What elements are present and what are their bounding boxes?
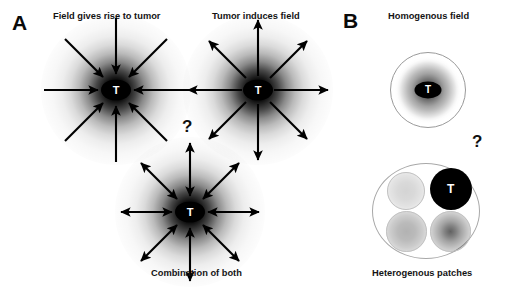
panel-letter-a: A bbox=[12, 12, 27, 33]
diagram-combination-of-both: T bbox=[115, 137, 265, 287]
tumor-node-2: T bbox=[243, 80, 273, 101]
tumor-label: T bbox=[113, 84, 120, 96]
figure-canvas: A Field gives rise to tumor Tumor induce… bbox=[0, 0, 515, 300]
tumor-node-homogenous: T bbox=[415, 82, 442, 99]
question-mark-panel-b: ? bbox=[472, 133, 482, 150]
diagram-caption-combination-of-both: Combination of both bbox=[151, 268, 242, 278]
diagram-homogenous-field: T bbox=[378, 40, 478, 140]
patch-bottom-left-outline bbox=[386, 211, 427, 252]
tumor-label: T bbox=[425, 85, 431, 96]
tumor-label: T bbox=[255, 84, 262, 96]
tumor-node-3: T bbox=[175, 202, 205, 223]
tumor-label: T bbox=[187, 206, 194, 218]
diagram-title-homogenous-field: Homogenous field bbox=[388, 11, 469, 21]
panel-letter-b: B bbox=[343, 10, 358, 31]
tumor-label: T bbox=[447, 183, 454, 195]
question-mark-panel-a: ? bbox=[182, 118, 192, 135]
tumor-node-1: T bbox=[101, 80, 131, 101]
patch-top-left-outline bbox=[387, 172, 425, 210]
patch-bottom-right-outline bbox=[430, 211, 471, 252]
diagram-heterogenous-patches: T bbox=[372, 163, 480, 259]
diagram-caption-heterogenous-patches: Heterogenous patches bbox=[372, 268, 472, 278]
